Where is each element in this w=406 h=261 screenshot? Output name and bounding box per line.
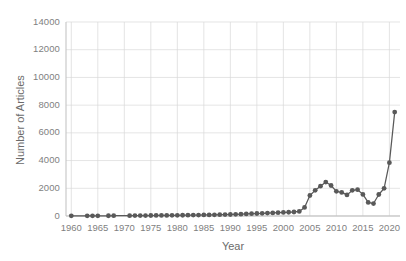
data-point-marker bbox=[376, 192, 381, 197]
data-point-marker bbox=[217, 212, 222, 217]
y-axis-tick-label: 2000 bbox=[8, 182, 60, 193]
data-point-marker bbox=[143, 213, 148, 218]
data-point-marker bbox=[90, 213, 95, 218]
data-point-marker bbox=[180, 213, 185, 218]
data-point-marker bbox=[260, 211, 265, 216]
data-point-marker bbox=[329, 183, 334, 188]
data-point-marker bbox=[69, 213, 74, 218]
data-point-marker bbox=[249, 211, 254, 216]
data-point-marker bbox=[254, 211, 259, 216]
data-point-marker bbox=[95, 213, 100, 218]
data-point-marker bbox=[111, 213, 116, 218]
data-point-marker bbox=[318, 184, 323, 189]
data-point-marker bbox=[170, 213, 175, 218]
vertical-gridlines bbox=[71, 22, 389, 216]
y-axis-tick-label: 14000 bbox=[8, 16, 60, 27]
data-point-marker bbox=[186, 213, 191, 218]
data-point-marker bbox=[345, 193, 350, 198]
data-point-marker bbox=[276, 210, 281, 215]
data-point-marker bbox=[307, 193, 312, 198]
data-point-marker bbox=[196, 213, 201, 218]
data-point-marker bbox=[286, 210, 291, 215]
horizontal-gridlines bbox=[66, 22, 400, 216]
data-point-marker bbox=[159, 213, 164, 218]
data-point-marker bbox=[127, 213, 132, 218]
data-point-marker bbox=[366, 200, 371, 205]
data-point-marker bbox=[154, 213, 159, 218]
data-point-marker bbox=[85, 213, 90, 218]
y-axis-title: Number of Articles bbox=[14, 75, 26, 165]
data-series-markers bbox=[69, 110, 397, 219]
data-point-marker bbox=[175, 213, 180, 218]
data-point-marker bbox=[360, 192, 365, 197]
data-point-marker bbox=[201, 213, 206, 218]
data-point-marker bbox=[323, 180, 328, 185]
data-point-marker bbox=[212, 212, 217, 217]
data-series-line bbox=[71, 112, 394, 216]
data-point-marker bbox=[392, 110, 397, 115]
data-point-marker bbox=[138, 213, 143, 218]
axis-lines bbox=[66, 22, 400, 216]
data-point-marker bbox=[355, 187, 360, 192]
data-point-marker bbox=[339, 190, 344, 195]
chart-container: 02000400060008000100001200014000 1960196… bbox=[0, 0, 406, 261]
data-point-marker bbox=[106, 213, 111, 218]
y-axis-tick-label: 12000 bbox=[8, 43, 60, 54]
data-point-marker bbox=[133, 213, 138, 218]
data-point-marker bbox=[302, 205, 307, 210]
data-point-marker bbox=[265, 211, 270, 216]
data-point-marker bbox=[239, 212, 244, 217]
data-point-marker bbox=[371, 201, 376, 206]
data-point-marker bbox=[244, 212, 249, 217]
x-axis-title: Year bbox=[26, 240, 406, 252]
data-point-marker bbox=[387, 160, 392, 165]
data-point-marker bbox=[191, 213, 196, 218]
y-axis-tick-label: 0 bbox=[8, 210, 60, 221]
data-point-marker bbox=[382, 186, 387, 191]
data-point-marker bbox=[313, 188, 318, 193]
data-point-marker bbox=[334, 189, 339, 194]
data-point-marker bbox=[350, 188, 355, 193]
data-point-marker bbox=[148, 213, 153, 218]
data-point-marker bbox=[233, 212, 238, 217]
data-point-marker bbox=[207, 212, 212, 217]
x-axis-tick-label: 2020 bbox=[372, 222, 406, 233]
data-point-marker bbox=[223, 212, 228, 217]
data-point-marker bbox=[270, 210, 275, 215]
data-point-marker bbox=[164, 213, 169, 218]
data-point-marker bbox=[292, 210, 297, 215]
data-point-marker bbox=[228, 212, 233, 217]
data-point-marker bbox=[281, 210, 286, 215]
data-point-marker bbox=[297, 209, 302, 214]
